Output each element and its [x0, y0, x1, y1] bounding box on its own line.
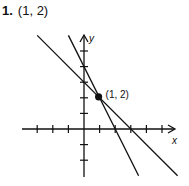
- line-1: [37, 35, 177, 175]
- x-axis-label: x: [171, 135, 178, 146]
- intersection-label: (1, 2): [106, 89, 129, 100]
- intersection-point: [95, 93, 102, 100]
- graph: xy(1, 2): [0, 0, 189, 186]
- y-axis-label: y: [88, 33, 95, 44]
- line-2: [68, 35, 138, 175]
